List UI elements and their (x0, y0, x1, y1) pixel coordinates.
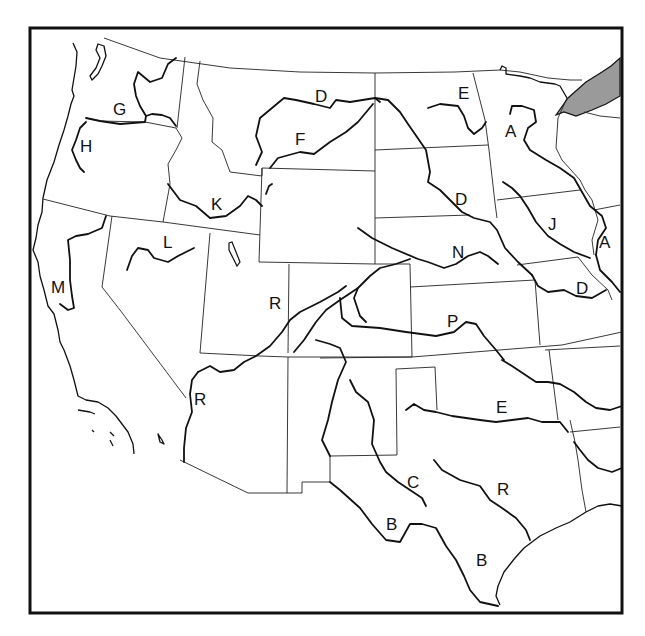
label-r3: R (497, 480, 509, 499)
label-m: M (51, 278, 65, 297)
state-borders (43, 57, 622, 512)
channel-islands (78, 410, 164, 446)
river-m (60, 216, 106, 310)
river-e (428, 104, 486, 134)
label-a2: A (599, 233, 611, 252)
western-us-river-map: G H D E F A K D J A L N M R D P R E C R … (0, 0, 645, 636)
river-g-upper (134, 58, 176, 116)
river-e-red (406, 404, 568, 432)
river-n (358, 228, 498, 268)
rivers (60, 58, 622, 540)
label-j: J (548, 215, 557, 234)
puget-sound (90, 44, 106, 80)
river-a-upper (510, 106, 606, 255)
label-p: P (447, 312, 458, 331)
label-b1: B (386, 515, 397, 534)
label-h: H (80, 137, 92, 156)
river-f (270, 104, 373, 168)
river-r-tx (434, 460, 530, 540)
label-n: N (452, 243, 464, 262)
river-k-upper (266, 184, 272, 194)
label-k: K (211, 195, 223, 214)
river-a-lower (596, 255, 620, 292)
river-p-lower (502, 360, 622, 410)
label-f: F (295, 130, 305, 149)
label-e1: E (458, 84, 469, 103)
label-l: L (163, 233, 172, 252)
river-j (503, 182, 590, 258)
label-g: G (113, 100, 126, 119)
label-b2: B (476, 551, 487, 570)
river-labels: G H D E F A K D J A L N M R D P R E C R … (51, 84, 611, 570)
gulf-coastline (496, 512, 586, 605)
label-a1: A (505, 122, 517, 141)
river-d-upper (256, 98, 380, 165)
river-p (340, 298, 504, 360)
river-e-red-lower (574, 442, 622, 472)
label-e2: E (496, 398, 507, 417)
great-salt-lake (229, 242, 240, 266)
river-rio-grande-border (330, 482, 498, 606)
river-d-lower (532, 275, 606, 298)
la-coastline (586, 504, 622, 512)
label-d3: D (576, 279, 588, 298)
label-r1: R (269, 294, 281, 313)
river-r-lower (184, 372, 198, 462)
river-p-branch (354, 288, 366, 322)
label-r2: R (194, 390, 206, 409)
label-d2: D (455, 190, 467, 209)
river-l (127, 248, 194, 270)
label-c: C (407, 473, 419, 492)
label-d1: D (315, 87, 327, 106)
lake-superior (556, 58, 620, 116)
river-g (86, 114, 176, 126)
